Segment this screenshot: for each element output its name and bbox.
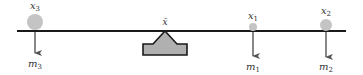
mass-m1-label: m1	[246, 61, 260, 74]
mass-2-ball	[320, 19, 332, 31]
position-x2-label: x2	[321, 5, 331, 18]
mass-m3-label: m3	[28, 58, 42, 71]
mass-3-ball	[27, 14, 43, 30]
mass-m2-label: m2	[319, 61, 333, 74]
mass-1-ball	[249, 23, 257, 31]
mass-2: x2 m2	[319, 5, 333, 74]
position-x3-label: x3	[30, 0, 40, 13]
center-of-mass-label: x̄	[162, 17, 167, 27]
mass-3: x3 m3	[27, 0, 43, 71]
fulcrum	[143, 31, 187, 55]
position-x1-label: x1	[248, 10, 258, 23]
lever-diagram-svg: x̄ x3 m3 x1 m1 x2 m2	[0, 0, 363, 75]
mass-1: x1 m1	[246, 10, 260, 74]
lever-diagram: x̄ x3 m3 x1 m1 x2 m2	[0, 0, 363, 75]
